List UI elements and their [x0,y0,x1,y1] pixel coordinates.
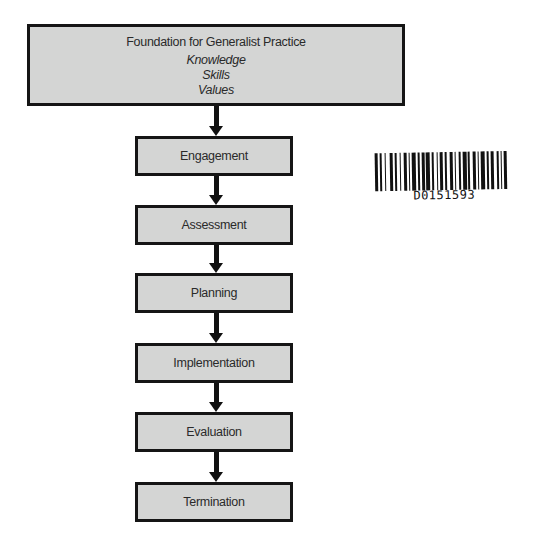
step-termination: Termination [135,482,293,522]
arrow-down-icon [207,176,225,205]
arrow-down-icon [207,383,225,412]
step-evaluation: Evaluation [135,412,293,452]
arrow-down-icon [207,245,225,273]
step-label: Termination [183,495,244,509]
step-planning: Planning [135,273,293,313]
foundation-item-knowledge: Knowledge [186,53,245,68]
step-label: Evaluation [186,425,241,439]
barcode: D0151593 [373,147,524,206]
arrow-down-icon [207,313,225,343]
arrow-down-icon [207,452,225,482]
step-assessment: Assessment [135,205,293,245]
step-implementation: Implementation [135,343,293,383]
foundation-item-values: Values [198,83,234,98]
foundation-title: Foundation for Generalist Practice [126,35,305,50]
step-label: Assessment [181,218,246,232]
barcode-bars [375,151,522,192]
foundation-item-skills: Skills [202,68,229,83]
step-label: Implementation [173,356,254,370]
step-label: Planning [191,286,237,300]
step-label: Engagement [180,149,248,163]
arrow-down-icon [207,106,225,136]
barcode-number: D0151593 [413,188,475,203]
foundation-box: Foundation for Generalist Practice Knowl… [27,24,405,106]
step-engagement: Engagement [135,136,293,176]
